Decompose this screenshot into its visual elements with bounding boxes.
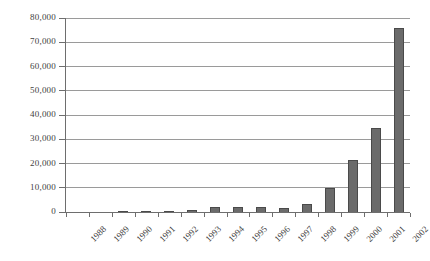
y-axis-tick-label: 0: [4, 207, 56, 216]
x-axis-tick-label: 2001: [387, 224, 407, 244]
bar: [394, 28, 404, 212]
y-axis-tick-mark: [59, 115, 65, 116]
bar: [256, 207, 266, 212]
x-axis-tick-label: 1997: [295, 224, 315, 244]
bar: [187, 210, 197, 212]
y-axis-tick-label: 80,000: [4, 13, 56, 22]
x-axis-tick-mark: [364, 213, 365, 217]
y-axis-tick-label: 70,000: [4, 37, 56, 46]
bar: [118, 211, 128, 212]
x-axis-tick-label: 1992: [180, 224, 200, 244]
x-axis-tick-label: 2000: [364, 224, 384, 244]
x-axis-tick-label: 1989: [112, 224, 132, 244]
y-axis-tick-label: 50,000: [4, 86, 56, 95]
y-axis-tick-mark: [59, 42, 65, 43]
x-axis-tick-mark: [410, 213, 411, 217]
y-axis-tick-mark: [59, 66, 65, 67]
bar: [233, 207, 243, 212]
x-axis-tick-mark: [295, 213, 296, 217]
y-axis-tick-label: 40,000: [4, 110, 56, 119]
x-axis-tick-mark: [387, 213, 388, 217]
x-axis-tick-label: 1993: [203, 224, 223, 244]
bar: [348, 160, 358, 212]
x-axis-tick-mark: [204, 213, 205, 217]
x-axis-tick-label: 1999: [341, 224, 361, 244]
y-axis-tick-mark: [59, 18, 65, 19]
x-axis-tick-label: 2002: [410, 224, 430, 244]
x-axis-tick-mark: [89, 213, 90, 217]
y-axis-tick-label: 20,000: [4, 159, 56, 168]
x-axis-tick-mark: [227, 213, 228, 217]
bar: [302, 204, 312, 212]
x-axis-tick-label: 1991: [158, 224, 178, 244]
x-axis-tick-mark: [318, 213, 319, 217]
x-axis-tick-label: 1994: [226, 224, 246, 244]
y-axis-tick-label: 10,000: [4, 183, 56, 192]
bar: [371, 128, 381, 212]
x-axis-tick-mark: [272, 213, 273, 217]
y-axis-tick-mark: [59, 187, 65, 188]
bar: [325, 188, 335, 212]
bar: [164, 211, 174, 212]
x-axis-tick-mark: [112, 213, 113, 217]
y-axis-tick-mark: [59, 139, 65, 140]
x-axis-tick-label: 1990: [135, 224, 155, 244]
y-axis-tick-mark: [59, 212, 65, 213]
y-axis-tick-label: 30,000: [4, 134, 56, 143]
x-axis-tick-mark: [181, 213, 182, 217]
x-axis-tick-mark: [135, 213, 136, 217]
x-axis-tick-label: 1988: [89, 224, 109, 244]
y-axis-tick-mark: [59, 163, 65, 164]
y-axis-tick-labels: 010,00020,00030,00040,00050,00060,00070,…: [0, 0, 56, 261]
x-axis-tick-labels: 1988198919901991199219931994199519961997…: [66, 218, 410, 261]
x-axis-tick-mark: [341, 213, 342, 217]
bar: [141, 211, 151, 212]
y-axis-tick-mark: [59, 90, 65, 91]
x-axis-tick-label: 1998: [318, 224, 338, 244]
x-axis-tick-mark: [249, 213, 250, 217]
plot-area: [66, 18, 410, 212]
bars-group: [66, 18, 410, 212]
x-axis-tick-label: 1995: [249, 224, 269, 244]
bar: [210, 207, 220, 212]
x-axis-tick-mark: [158, 213, 159, 217]
bar: [279, 208, 289, 212]
x-axis-tick-label: 1996: [272, 224, 292, 244]
y-axis-tick-label: 60,000: [4, 62, 56, 71]
x-axis-tick-mark: [66, 213, 67, 217]
